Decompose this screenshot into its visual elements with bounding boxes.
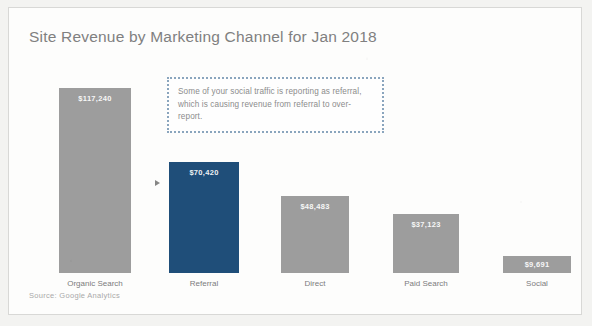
category-label-organic-search: Organic Search [41,279,149,288]
annotation-callout-box[interactable]: Some of your social traffic is reporting… [167,77,384,133]
annotation-pointer-icon [155,180,160,186]
category-label-paid-search: Paid Search [375,279,477,288]
slide-frame: Site Revenue by Marketing Channel for Ja… [8,7,582,315]
bar-group-paid-search: $37,123 Paid Search [393,214,459,273]
bar-paid-search[interactable]: $37,123 [393,214,459,273]
bar-social[interactable]: $9,691 [503,256,571,273]
category-label-direct: Direct [263,279,367,288]
bar-referral[interactable]: $70,420 [169,162,239,273]
bar-value-label: $117,240 [59,94,131,103]
category-label-referral: Referral [151,279,257,288]
annotation-text: Some of your social traffic is reporting… [178,86,373,124]
bar-organic-search[interactable]: $117,240 [59,88,131,273]
bar-value-label: $9,691 [503,260,571,269]
source-note: Source: Google Analytics [29,291,120,300]
bar-group-direct: $48,483 Direct [281,196,349,273]
category-label-social: Social [485,279,589,288]
bar-group-organic-search: $117,240 Organic Search [59,88,131,273]
bar-direct[interactable]: $48,483 [281,196,349,273]
bar-value-label: $70,420 [169,168,239,177]
bar-value-label: $48,483 [281,202,349,211]
bar-group-social: $9,691 Social [503,256,571,273]
page-title: Site Revenue by Marketing Channel for Ja… [29,28,377,46]
bar-group-referral: $70,420 Referral [169,162,239,273]
bar-value-label: $37,123 [393,220,459,229]
